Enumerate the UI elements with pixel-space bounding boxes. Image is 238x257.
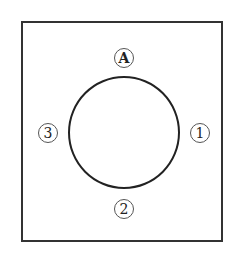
- label-top-a: A: [114, 48, 134, 68]
- label-bottom-2: 2: [114, 199, 134, 219]
- center-circle: [68, 76, 180, 189]
- label-right-1: 1: [190, 123, 210, 143]
- label-left-3: 3: [38, 123, 58, 143]
